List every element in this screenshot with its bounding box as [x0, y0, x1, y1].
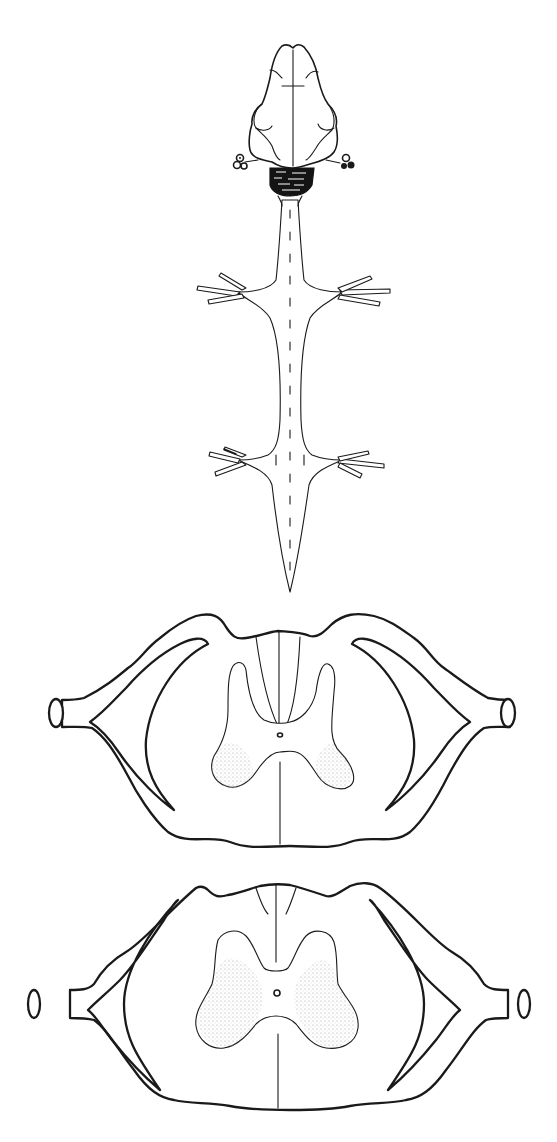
- dorsal-view-panel: [197, 45, 390, 592]
- section1-left-root-cap: [49, 699, 63, 727]
- section1-right-root-cap: [501, 699, 515, 727]
- section1-central-canal: [278, 733, 283, 737]
- section-brachial-panel: [49, 614, 515, 847]
- section2-right-root-cap: [518, 990, 530, 1018]
- section-lumbar-panel: [28, 883, 530, 1110]
- lumbar-nerves-right: [338, 451, 384, 478]
- brachial-nerves-left: [197, 273, 246, 304]
- brachial-nerves-right: [338, 276, 390, 306]
- section2-central-canal: [274, 990, 280, 996]
- section2-left-root-cap: [28, 990, 40, 1018]
- nervous-system-diagram: [0, 0, 557, 1142]
- medulla: [270, 168, 314, 196]
